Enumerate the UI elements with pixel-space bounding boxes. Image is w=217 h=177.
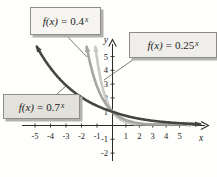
x-tick-label-1: 1 — [124, 131, 128, 141]
x-tick-label--4: -4 — [47, 131, 55, 141]
exponential-decay-figure: -5-4-3-2-11234512345-1-2 x y f(x)=0.4x f… — [0, 0, 217, 177]
x-tick-label-4: 4 — [164, 131, 169, 141]
label-fx-0.4-exp: x — [85, 16, 88, 24]
leader-line-0.25 — [104, 57, 137, 80]
x-axis-label: x — [198, 133, 204, 143]
y-tick-label-3: 3 — [104, 79, 108, 89]
y-tick-label--2: -2 — [101, 148, 108, 158]
label-fx-0.4-base: 0.4 — [70, 15, 84, 27]
y-tick-label--1: -1 — [101, 134, 108, 144]
label-fx-0.7-exp: x — [61, 102, 64, 110]
label-fx-0.7-eq: = — [37, 101, 43, 113]
x-tick-label-3: 3 — [151, 131, 155, 141]
y-tick-label-4: 4 — [104, 65, 109, 75]
x-tick-label-2: 2 — [137, 131, 141, 141]
label-fx-0.25-eq: = — [166, 39, 172, 51]
label-fx-0.25-exp: x — [195, 40, 198, 48]
x-tick-label--5: -5 — [31, 131, 38, 141]
label-fx-0.25-f: f(x) — [147, 39, 162, 51]
x-tick-label--2: -2 — [78, 131, 85, 141]
label-fx-0.4-f: f(x) — [43, 15, 58, 27]
label-fx-0.7-f: f(x) — [19, 101, 34, 113]
x-tick-label-5: 5 — [177, 131, 181, 141]
y-axis-label: y — [103, 35, 109, 45]
label-fx-0.25: f(x)=0.25x — [129, 32, 217, 58]
y-tick-label-5: 5 — [104, 52, 108, 62]
x-tick-label--1: -1 — [93, 131, 100, 141]
leader-line-0.4 — [64, 33, 87, 57]
label-fx-0.4-eq: = — [61, 15, 67, 27]
label-fx-0.7: f(x)=0.7x — [3, 94, 80, 119]
label-fx-0.25-base: 0.25 — [175, 39, 194, 51]
label-fx-0.4: f(x)=0.4x — [30, 7, 101, 35]
label-fx-0.7-base: 0.7 — [46, 101, 60, 113]
x-tick-label--3: -3 — [62, 131, 69, 141]
